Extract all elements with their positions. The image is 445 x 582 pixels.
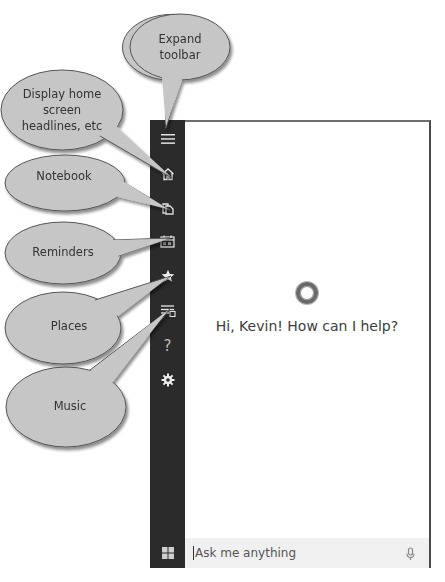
reminders-icon: [160, 235, 175, 248]
callout-expand-toolbar-line1: Expand: [158, 32, 201, 46]
music-list-icon: [160, 304, 176, 317]
callout-places: Places: [5, 276, 171, 364]
expand-toolbar-button[interactable]: [150, 128, 185, 150]
callout-expand-toolbar-shape: [122, 14, 222, 128]
home-icon: [161, 167, 175, 181]
callout-expand-toolbar: Expand toolbar: [122, 14, 230, 128]
cortana-sidebar: ?: [150, 120, 185, 568]
microphone-icon: [406, 547, 415, 561]
callout-expand-toolbar-line2: toolbar: [160, 48, 201, 62]
music-button[interactable]: [150, 299, 185, 321]
callout-music: Music: [6, 309, 170, 447]
callout-places-label: Places: [51, 319, 88, 333]
settings-button[interactable]: [150, 369, 185, 391]
search-bar[interactable]: [185, 538, 431, 568]
greeting-text: Hi, Kevin! How can I help?: [185, 318, 429, 334]
reminders-button[interactable]: [150, 230, 185, 252]
cortana-ring-icon: [296, 282, 318, 304]
callout-home-line3: headlines, etc: [22, 119, 103, 133]
help-button[interactable]: ?: [150, 335, 185, 357]
callout-notebook-label: Notebook: [36, 169, 92, 183]
question-icon: ?: [164, 337, 172, 355]
start-button[interactable]: [150, 538, 185, 568]
callout-home-line1: Display home: [23, 87, 102, 101]
callout-music-label: Music: [54, 399, 87, 413]
home-button[interactable]: [150, 163, 185, 185]
notebook-icon: [161, 201, 175, 215]
callout-notebook: Notebook: [5, 155, 170, 211]
search-input[interactable]: [194, 546, 385, 560]
greeting-area: Hi, Kevin! How can I help?: [185, 282, 429, 334]
star-icon: [161, 269, 175, 283]
callout-reminders: Reminders: [5, 222, 170, 284]
cortana-home-panel: Hi, Kevin! How can I help?: [185, 120, 431, 538]
callout-home: Display home screen headlines, etc: [1, 70, 172, 178]
places-button[interactable]: [150, 265, 185, 287]
callout-reminders-label: Reminders: [32, 245, 93, 259]
gear-icon: [161, 373, 175, 387]
notebook-button[interactable]: [150, 197, 185, 219]
windows-logo-icon: [162, 547, 174, 559]
hamburger-icon: [160, 133, 176, 145]
callout-home-line2: screen: [43, 103, 81, 117]
microphone-button[interactable]: [406, 546, 415, 565]
